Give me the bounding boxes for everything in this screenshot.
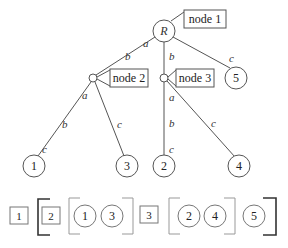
leaf-1-label: 1: [31, 159, 37, 173]
pointer-node1: [171, 12, 184, 21]
pointer-node2-b: [97, 79, 110, 86]
serialization-row: 1 2 1 3 3 2 4 5: [10, 198, 276, 235]
edge-node3-leaf4: [167, 81, 235, 157]
ser-box-2-label: 2: [48, 210, 54, 222]
ser-circle-3-label: 3: [109, 209, 115, 223]
internal-node-3: [160, 74, 168, 82]
ser-box-3-label: 3: [146, 209, 152, 221]
root-label: R: [159, 24, 168, 38]
internal-node-2: [89, 74, 97, 82]
pointer-node3: [168, 70, 176, 77]
inner-bracket-right-1: [122, 198, 133, 234]
ser-circle-2-label: 2: [186, 209, 192, 223]
edge-label: a: [82, 89, 88, 101]
ser-circle-5-label: 5: [251, 209, 257, 223]
edge-label: c: [169, 143, 174, 155]
leaf-3-label: 3: [124, 159, 130, 173]
leaf-4-label: 4: [236, 159, 242, 173]
ser-circle-4-label: 4: [212, 209, 218, 223]
edge-label: c: [117, 118, 122, 130]
edge-label: a: [143, 37, 149, 49]
edge-label: b: [169, 117, 175, 129]
node1-tag: node 1: [189, 12, 221, 26]
edge-label: c: [211, 117, 216, 129]
node2-tag: node 2: [113, 71, 145, 85]
pointer-node3-b: [168, 79, 176, 86]
edge-label: b: [62, 118, 68, 130]
leaf-5-label: 5: [233, 71, 239, 85]
edge-r-leaf5: [173, 37, 230, 68]
leaf-2-label: 2: [161, 159, 167, 173]
ser-circle-1-label: 1: [82, 209, 88, 223]
edge-label: b: [125, 50, 131, 62]
edge-label: c: [42, 143, 47, 155]
node3-tag: node 3: [179, 71, 211, 85]
edge-label: b: [169, 50, 175, 62]
tree-diagram: R node 1 node 2 node 3 5 1 3 2 4 a b b c…: [0, 0, 288, 248]
edge-label: c: [229, 52, 234, 64]
edge-label: a: [169, 91, 175, 103]
ser-box-1-label: 1: [16, 210, 22, 222]
